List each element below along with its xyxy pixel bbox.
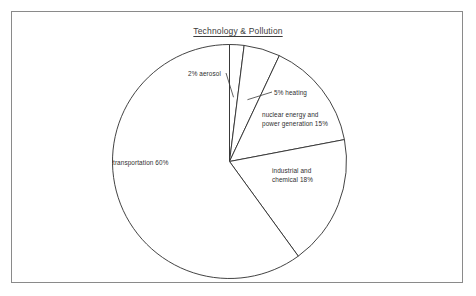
pie-label-industrial-chemical: industrial andchemical 18% bbox=[272, 167, 313, 183]
pie-label-nuclear-energy-power-generation: nuclear energy andpower generation 15% bbox=[262, 111, 328, 128]
pie-chart: 2% aerosol5% heatingnuclear energy andpo… bbox=[0, 0, 476, 296]
pie-label-line: 2% aerosol bbox=[188, 70, 221, 77]
pie-label-line: transportation 60% bbox=[113, 159, 169, 167]
pie-label-line: industrial and bbox=[272, 167, 312, 174]
pie-label-line: power generation 15% bbox=[262, 120, 328, 128]
pie-label-heating: 5% heating bbox=[274, 89, 307, 97]
pie-label-aerosol: 2% aerosol bbox=[188, 70, 221, 77]
pie-label-line: nuclear energy and bbox=[262, 111, 319, 119]
figure-page: Technology & Pollution 2% aerosol5% heat… bbox=[0, 0, 476, 296]
pie-label-line: chemical 18% bbox=[272, 176, 313, 183]
pie-label-line: 5% heating bbox=[274, 89, 307, 97]
pie-label-transportation: transportation 60% bbox=[113, 159, 169, 167]
